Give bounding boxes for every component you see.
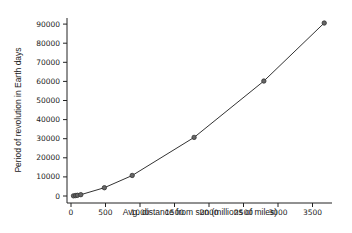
data-series bbox=[71, 21, 326, 198]
y-tick-label: 90000 bbox=[36, 20, 60, 29]
plot-area: 0100002000030000400005000060000700008000… bbox=[0, 0, 352, 233]
x-tick-label: 500 bbox=[98, 208, 113, 217]
x-axis-label: Avg. distance from sun (millions of mile… bbox=[123, 207, 277, 217]
x-tick-label: 0 bbox=[69, 208, 74, 217]
data-point-marker bbox=[192, 135, 196, 139]
y-tick-label: 0 bbox=[55, 192, 60, 201]
y-tick-label: 30000 bbox=[36, 134, 60, 143]
data-point-marker bbox=[130, 173, 134, 177]
x-tick-label: 3500 bbox=[303, 208, 322, 217]
data-point-marker bbox=[322, 21, 326, 25]
y-tick-label: 80000 bbox=[36, 39, 60, 48]
y-tick-label: 20000 bbox=[36, 153, 60, 162]
y-tick-label: 10000 bbox=[36, 172, 60, 181]
y-tick-label: 60000 bbox=[36, 77, 60, 86]
data-point-marker bbox=[262, 79, 266, 83]
y-axis-label: Period of revolution in Earth days bbox=[13, 47, 23, 172]
data-point-marker bbox=[79, 192, 83, 196]
series-line bbox=[74, 23, 325, 196]
chart: 0100002000030000400005000060000700008000… bbox=[0, 0, 352, 233]
axes: 0100002000030000400005000060000700008000… bbox=[36, 18, 332, 217]
y-tick-label: 70000 bbox=[36, 58, 60, 67]
y-tick-label: 50000 bbox=[36, 96, 60, 105]
y-tick-label: 40000 bbox=[36, 115, 60, 124]
data-point-marker bbox=[102, 186, 106, 190]
